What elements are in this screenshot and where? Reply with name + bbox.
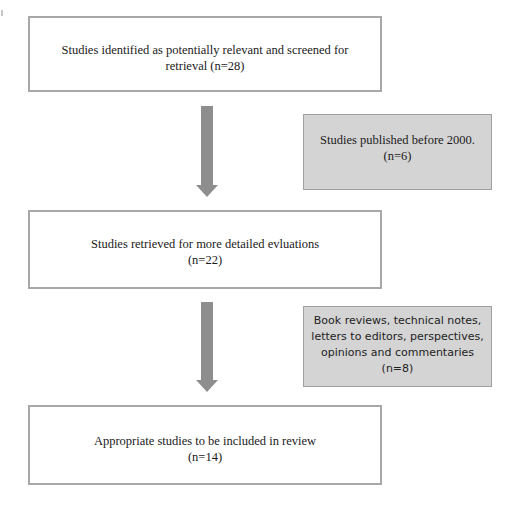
step-text: Studies identified as potentially releva… xyxy=(61,42,348,58)
step-count: retrieval (n=28) xyxy=(166,58,245,74)
step-count: (n=14) xyxy=(188,449,222,465)
step-count: (n=22) xyxy=(188,252,222,268)
step-box-identified: Studies identified as potentially releva… xyxy=(28,16,382,92)
exclusion-count: (n=8) xyxy=(382,361,414,377)
exclusion-text: letters to editors, perspectives, xyxy=(311,329,483,345)
exclusion-text: opinions and commentaries xyxy=(321,345,474,361)
down-arrow-icon xyxy=(196,106,218,197)
exclusion-count: (n=6) xyxy=(384,148,412,164)
exclusion-text: Studies published before 2000. xyxy=(320,132,475,148)
step-text: Appropriate studies to be included in re… xyxy=(94,433,316,449)
step-text: Studies retrieved for more detailed evlu… xyxy=(91,236,319,252)
exclusion-box-pre-2000: Studies published before 2000. (n=6) xyxy=(303,114,492,190)
edge-artifact xyxy=(1,10,3,16)
exclusion-text: Book reviews, technical notes, xyxy=(314,313,481,329)
exclusion-box-article-types: Book reviews, technical notes, letters t… xyxy=(303,306,492,387)
down-arrow-icon xyxy=(196,302,218,392)
arrow-head xyxy=(196,185,218,197)
step-box-included: Appropriate studies to be included in re… xyxy=(28,405,382,485)
step-box-retrieved: Studies retrieved for more detailed evlu… xyxy=(28,210,382,289)
arrow-head xyxy=(196,380,218,392)
arrow-shaft xyxy=(201,106,213,185)
arrow-shaft xyxy=(201,302,213,380)
